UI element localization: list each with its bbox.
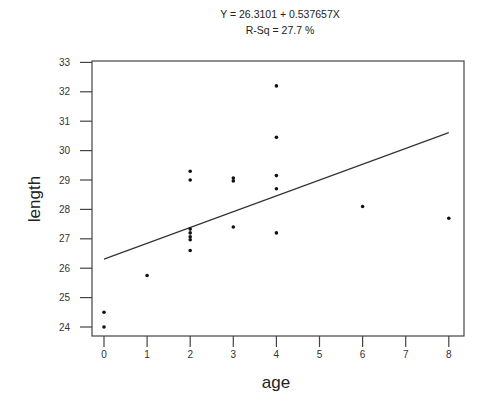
y-tick-label: 27 — [59, 233, 71, 244]
y-tick-label: 32 — [59, 86, 71, 97]
y-axis: 24252627282930313233 — [59, 57, 92, 333]
data-point — [275, 84, 279, 88]
data-point — [275, 187, 279, 191]
data-point — [102, 311, 106, 315]
y-tick-label: 24 — [59, 322, 71, 333]
x-tick-label: 6 — [360, 349, 366, 360]
scatter-plot: 24252627282930313233 012345678 age lengt… — [0, 0, 487, 415]
y-axis-title: length — [25, 176, 44, 222]
x-tick-label: 8 — [446, 349, 452, 360]
x-tick-label: 3 — [231, 349, 237, 360]
y-tick-label: 28 — [59, 204, 71, 215]
x-tick-label: 7 — [403, 349, 409, 360]
data-point — [361, 205, 365, 209]
data-point — [232, 225, 236, 229]
data-points — [102, 84, 450, 329]
y-tick-label: 33 — [59, 57, 71, 68]
data-point — [145, 274, 149, 278]
x-tick-label: 0 — [101, 349, 107, 360]
y-tick-label: 30 — [59, 145, 71, 156]
data-point — [188, 169, 192, 173]
x-tick-label: 1 — [144, 349, 150, 360]
data-point — [188, 238, 192, 242]
plot-frame — [92, 61, 464, 336]
x-axis: 012345678 — [101, 336, 452, 360]
data-point — [275, 231, 279, 235]
y-tick-label: 29 — [59, 175, 71, 186]
y-tick-label: 25 — [59, 292, 71, 303]
x-tick-label: 5 — [317, 349, 323, 360]
data-point — [188, 227, 192, 231]
data-point — [188, 178, 192, 182]
data-point — [188, 231, 192, 235]
data-point — [102, 325, 106, 329]
x-tick-label: 4 — [274, 349, 280, 360]
regression-line — [104, 133, 449, 259]
y-tick-label: 26 — [59, 263, 71, 274]
data-point — [275, 136, 279, 140]
data-point — [275, 174, 279, 178]
y-tick-label: 31 — [59, 116, 71, 127]
data-point — [188, 249, 192, 253]
x-tick-label: 2 — [187, 349, 193, 360]
x-axis-title: age — [262, 373, 290, 392]
data-point — [232, 179, 236, 183]
data-point — [447, 216, 451, 220]
